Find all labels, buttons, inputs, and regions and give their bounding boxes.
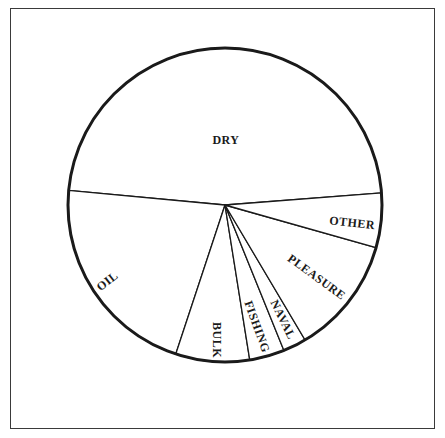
slice-label-dry: DRY: [212, 133, 239, 147]
pie-slice-dry: [69, 48, 382, 205]
slice-label-bulk: BULK: [210, 322, 224, 358]
pie-chart: DRYOILBULKFISHINGNAVALPLEASUREOTHER: [0, 0, 445, 438]
